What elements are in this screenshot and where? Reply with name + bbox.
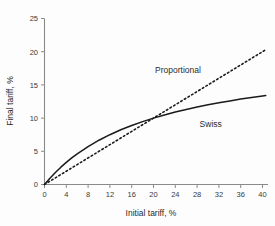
x-tick-label: 16 bbox=[128, 190, 136, 199]
y-tick-label: 10 bbox=[30, 114, 38, 123]
series-label-proportional: Proportional bbox=[155, 65, 201, 75]
y-tick-label: 25 bbox=[30, 14, 38, 23]
x-axis-tick-labels: 0481216202428323640 bbox=[42, 190, 266, 199]
y-tick-label: 20 bbox=[30, 48, 38, 57]
y-axis-tick-labels: 0510152025 bbox=[30, 14, 38, 189]
y-tick-label: 15 bbox=[30, 81, 38, 90]
series-label-swiss: Swiss bbox=[200, 119, 222, 129]
y-tick-label: 5 bbox=[34, 147, 38, 156]
x-tick-label: 8 bbox=[86, 190, 90, 199]
y-axis-title: Final tariff, % bbox=[5, 76, 15, 126]
x-tick-label: 4 bbox=[64, 190, 68, 199]
x-tick-label: 32 bbox=[215, 190, 223, 199]
x-tick-label: 20 bbox=[149, 190, 157, 199]
x-tick-label: 24 bbox=[171, 190, 179, 199]
x-tick-label: 28 bbox=[193, 190, 201, 199]
x-axis-title: Initial tariff, % bbox=[126, 208, 177, 218]
x-tick-label: 36 bbox=[237, 190, 245, 199]
x-tick-label: 40 bbox=[258, 190, 266, 199]
y-tick-label: 0 bbox=[34, 180, 38, 189]
x-tick-label: 0 bbox=[42, 190, 46, 199]
plot-area: 0510152025 0481216202428323640 Proportio… bbox=[5, 14, 268, 218]
series-line-swiss bbox=[45, 96, 266, 185]
chart-figure: 0510152025 0481216202428323640 Proportio… bbox=[0, 0, 275, 226]
chart-canvas: 0510152025 0481216202428323640 Proportio… bbox=[0, 0, 275, 226]
x-tick-label: 12 bbox=[106, 190, 114, 199]
